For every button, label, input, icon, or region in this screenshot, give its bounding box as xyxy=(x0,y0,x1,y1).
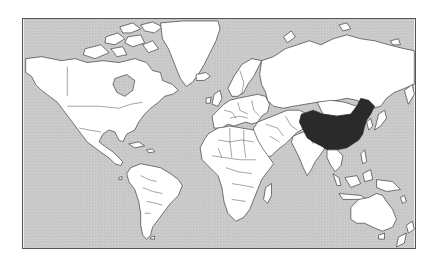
map-svg xyxy=(23,19,415,248)
world-map xyxy=(22,18,416,249)
